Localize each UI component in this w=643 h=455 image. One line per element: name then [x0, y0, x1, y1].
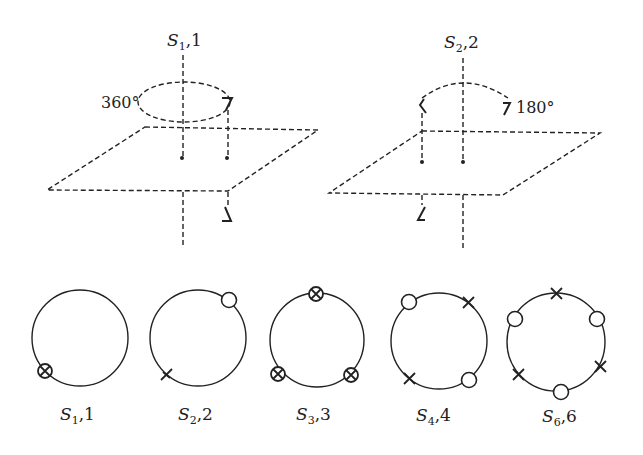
open-circle-marker — [554, 385, 569, 400]
s2-angle-label: 180° — [516, 98, 555, 117]
otimes-marker — [309, 287, 323, 301]
s2-motif-left-upper — [420, 99, 426, 113]
cross-marker — [404, 373, 415, 384]
cross-marker — [463, 297, 474, 308]
circle-s1: S1,1 — [32, 290, 128, 427]
circle-s4: S4,4 — [391, 293, 487, 428]
open-circle-marker — [508, 312, 523, 327]
symmetry-diagram: S1,1 360° S2,2 180° — [0, 0, 643, 455]
s1-angle-label: 360° — [101, 93, 140, 112]
open-circle-marker — [222, 293, 237, 308]
circle-s2: S2,2 — [150, 290, 246, 427]
circle-s4-label: S4,4 — [416, 405, 451, 428]
s1-rotation-diagram: S1,1 360° — [47, 30, 318, 245]
s1-axis-label: S1,1 — [167, 30, 202, 53]
s1-motif-point — [225, 156, 229, 160]
open-circle-marker — [590, 312, 605, 327]
s1-rotation-ellipse — [138, 82, 230, 122]
s2-axis-point — [461, 160, 465, 164]
s2-motif-left-lower — [418, 207, 425, 220]
circle-s1-label: S1,1 — [60, 404, 95, 427]
open-circle-marker — [462, 373, 477, 388]
circle-s3: S3,3 — [270, 287, 364, 427]
s2-motif-right — [503, 103, 510, 115]
s2-axis-label: S2,2 — [444, 32, 479, 55]
circle-s2-label: S2,2 — [178, 404, 213, 427]
s1-axis-point — [180, 156, 184, 160]
circle-s6-label: S6,6 — [542, 406, 577, 429]
open-circle-marker — [402, 295, 417, 310]
otimes-marker — [271, 367, 285, 381]
otimes-marker — [344, 368, 358, 382]
s1-motif-lower — [222, 207, 231, 221]
otimes-marker — [38, 364, 52, 378]
circle-s3-label: S3,3 — [296, 404, 331, 427]
circle-s6: S6,6 — [507, 288, 606, 429]
s2-rotation-diagram: S2,2 180° — [329, 32, 600, 248]
cross-marker — [513, 369, 524, 380]
s2-rotation-arc — [422, 83, 508, 98]
s1-motif-upper — [222, 98, 232, 110]
s2-motif-point — [420, 160, 424, 164]
